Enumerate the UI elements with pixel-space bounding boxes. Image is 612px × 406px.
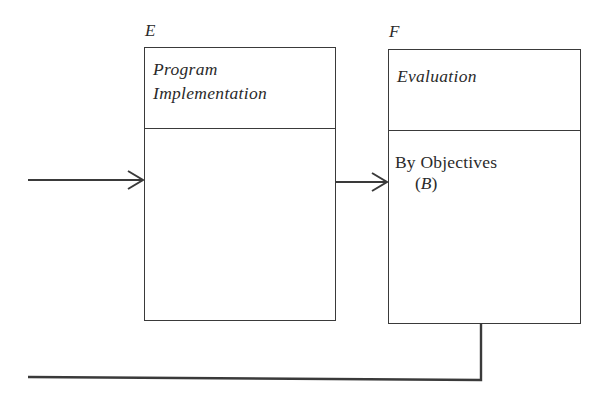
paren-close: ): [432, 173, 438, 193]
feedback-line: [28, 323, 481, 380]
box-e-header: Program Implementation: [145, 48, 335, 129]
box-e-letter: E: [145, 22, 155, 39]
box-f-header: Evaluation: [389, 50, 580, 131]
box-f-body: By Objectives (B): [389, 131, 580, 323]
box-program-implementation: Program Implementation: [144, 47, 336, 321]
box-e-title-line1: Program: [153, 57, 335, 81]
box-evaluation: Evaluation By Objectives (B): [388, 49, 581, 324]
box-f-body-ref: (B): [395, 173, 580, 193]
ref-letter-b: B: [421, 173, 432, 193]
box-e-body: [145, 129, 335, 320]
box-f-title: Evaluation: [397, 64, 580, 88]
box-f-body-text: By Objectives: [395, 151, 580, 173]
box-e-title-line2: Implementation: [153, 81, 335, 105]
diagram-canvas: E Program Implementation F Evaluation By…: [0, 0, 612, 406]
e-to-f-arrow: [336, 173, 387, 191]
box-f-letter: F: [389, 23, 399, 40]
input-arrow: [28, 171, 143, 189]
